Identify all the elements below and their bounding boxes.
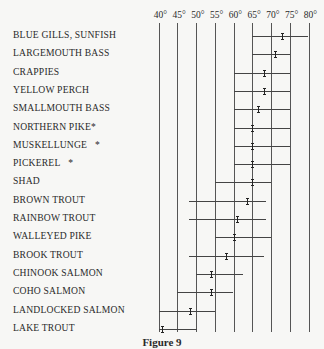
range-bar bbox=[189, 201, 266, 202]
x-tick-label: 65° bbox=[248, 10, 261, 20]
x-tick-label: 55° bbox=[210, 10, 223, 20]
x-tick-label: 80° bbox=[304, 10, 317, 20]
preferred-temp-marker bbox=[252, 125, 253, 132]
range-bar bbox=[196, 274, 243, 275]
preferred-temp-marker bbox=[162, 326, 163, 333]
preferred-temp-marker bbox=[211, 289, 212, 296]
grid-line bbox=[215, 23, 216, 332]
species-label: LAKE TROUT bbox=[13, 323, 75, 333]
species-label: LANDLOCKED SALMON bbox=[13, 305, 125, 315]
species-label: BROOK TROUT bbox=[13, 250, 83, 260]
x-tick-label: 45° bbox=[173, 10, 186, 20]
species-label: SHAD bbox=[13, 176, 40, 186]
range-bar bbox=[234, 91, 290, 92]
preferred-temp-marker bbox=[275, 51, 276, 58]
range-bar bbox=[234, 73, 290, 74]
species-label: WALLEYED PIKE bbox=[13, 231, 92, 241]
preferred-temp-marker bbox=[226, 253, 227, 260]
preferred-temp-marker bbox=[190, 308, 191, 315]
x-tick-label: 70° bbox=[266, 10, 279, 20]
preferred-temp-marker bbox=[264, 70, 265, 77]
species-label: PICKEREL * bbox=[13, 158, 73, 168]
grid-line bbox=[271, 23, 272, 332]
species-label: NORTHERN PIKE* bbox=[13, 122, 96, 132]
species-label: COHO SALMON bbox=[13, 286, 85, 296]
range-bar bbox=[252, 36, 308, 37]
preferred-temp-marker bbox=[237, 216, 238, 223]
x-tick-label: 75° bbox=[285, 10, 298, 20]
species-label: CRAPPIES bbox=[13, 67, 59, 77]
grid-line bbox=[234, 23, 235, 332]
x-tick-label: 40° bbox=[154, 10, 167, 20]
preferred-temp-marker bbox=[247, 198, 248, 205]
preferred-temp-marker bbox=[252, 179, 253, 186]
grid-line bbox=[252, 23, 253, 332]
species-label: BLUE GILLS, SUNFISH bbox=[13, 30, 116, 40]
range-bar bbox=[177, 292, 233, 293]
species-label: LARGEMOUTH BASS bbox=[13, 48, 110, 58]
species-label: CHINOOK SALMON bbox=[13, 268, 103, 278]
grid-line bbox=[196, 23, 197, 332]
species-label: MUSKELLUNGE * bbox=[13, 140, 100, 150]
preferred-temp-marker bbox=[211, 271, 212, 278]
grid-line bbox=[177, 23, 178, 332]
species-label: BROWN TROUT bbox=[13, 195, 85, 205]
range-bar bbox=[215, 237, 271, 238]
x-tick-label: 50° bbox=[191, 10, 204, 20]
range-bar bbox=[234, 164, 290, 165]
preferred-temp-marker bbox=[252, 143, 253, 150]
preferred-temp-marker bbox=[264, 88, 265, 95]
preferred-temp-marker bbox=[234, 234, 235, 241]
range-bar bbox=[159, 329, 197, 330]
range-bar bbox=[234, 109, 290, 110]
range-bar bbox=[234, 128, 290, 129]
grid-line bbox=[290, 23, 291, 332]
range-bar bbox=[234, 146, 290, 147]
preferred-temp-marker bbox=[252, 161, 253, 168]
grid-line bbox=[309, 23, 310, 332]
species-label: SMALLMOUTH BASS bbox=[13, 103, 110, 113]
species-label: RAINBOW TROUT bbox=[13, 213, 95, 223]
preferred-temp-marker bbox=[258, 106, 259, 113]
grid-line bbox=[159, 23, 160, 332]
range-bar bbox=[189, 219, 266, 220]
species-label: YELLOW PERCH bbox=[13, 85, 89, 95]
x-tick-label: 60° bbox=[229, 10, 242, 20]
range-bar bbox=[215, 182, 271, 183]
figure-caption: Figure 9 bbox=[0, 336, 324, 348]
range-bar bbox=[252, 54, 290, 55]
preferred-temp-marker bbox=[282, 33, 283, 40]
range-bar bbox=[159, 311, 215, 312]
